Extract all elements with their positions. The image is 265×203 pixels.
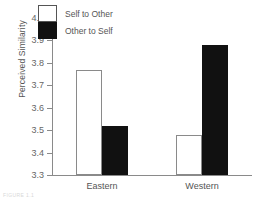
figure-caption-remnant: FIGURE 1.1 [3, 192, 34, 198]
open-square-icon [38, 5, 57, 22]
x-axis-line [52, 175, 252, 176]
y-tick-label: 3.7 [31, 80, 44, 90]
y-tick-mark [47, 63, 52, 64]
bar-chart-figure: Perceived Similarity 4.03.93.83.73.63.53… [0, 0, 265, 203]
y-tick-mark [47, 108, 52, 109]
chart-legend: Self to Other Other to Self [38, 5, 113, 39]
filled-square-icon [38, 22, 57, 39]
y-tick-label: 3.5 [31, 125, 44, 135]
plot-area: 4.03.93.83.73.63.53.43.3 EasternWestern [52, 18, 252, 175]
y-axis-title: Perceived Similarity [17, 0, 27, 124]
legend-label-self-to-other: Self to Other [65, 9, 113, 19]
y-tick-mark [47, 130, 52, 131]
legend-entry-self-to-other: Self to Other [38, 5, 113, 22]
legend-entry-other-to-self: Other to Self [38, 22, 113, 39]
x-axis-label-western: Western [185, 181, 218, 191]
bar-eastern-other-to-self [102, 126, 128, 175]
bar-eastern-self-to-other [76, 70, 102, 175]
y-tick-mark [47, 175, 52, 176]
y-axis-line [52, 18, 53, 175]
y-tick-label: 3.8 [31, 58, 44, 68]
bar-western-other-to-self [202, 45, 228, 175]
bar-western-self-to-other [176, 135, 202, 175]
y-tick-mark [47, 85, 52, 86]
y-tick-label: 3.3 [31, 170, 44, 180]
y-tick-mark [47, 153, 52, 154]
y-tick-label: 3.4 [31, 148, 44, 158]
legend-label-other-to-self: Other to Self [65, 26, 113, 36]
y-tick-mark [47, 40, 52, 41]
y-tick-label: 3.6 [31, 103, 44, 113]
x-axis-label-eastern: Eastern [86, 181, 117, 191]
